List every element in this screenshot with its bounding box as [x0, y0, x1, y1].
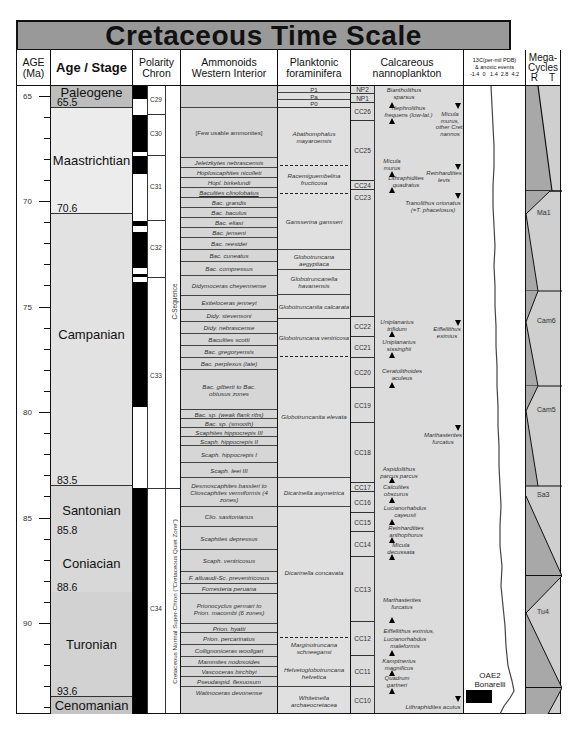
header-age-line1: AGE — [22, 57, 44, 68]
chart-title: Cretaceous Time Scale — [16, 20, 511, 51]
header-nannoplankton: Calcareous nannoplankton — [350, 50, 464, 86]
nanno-event: Micula murus, other Cret. nannos — [435, 111, 465, 137]
foram-zone: Helvetoglobotruncana helvetica — [278, 659, 350, 687]
nanno-zone-cc18: CC18 — [351, 423, 374, 483]
first-occurrence-icon — [389, 554, 395, 560]
stage-name: Cenomanian — [55, 698, 129, 713]
foram-zone: Globotruncana ventricosa — [278, 319, 350, 356]
stage-name: Campanian — [58, 327, 125, 342]
nanno-event: Biantholithus sparsus — [379, 87, 429, 100]
first-occurrence-icon — [389, 650, 395, 656]
foram-zone: Dicarinella concavata — [278, 507, 350, 637]
stage-boundary: 65.5 — [57, 96, 77, 108]
stage-name: Maastrichtian — [53, 153, 130, 168]
nanno-zone-cc12: CC12 — [351, 622, 374, 656]
ammonoid-zone: Clio. saxitonianus — [181, 507, 277, 527]
nanno-zone-cc10: CC10 — [351, 687, 374, 714]
age-column: 65 70 75 80 85 90 — [16, 86, 51, 714]
stage-campanian[interactable]: Campanian 83.5 — [51, 214, 132, 486]
nanno-event: Nephrolithus frequens (low-lat.) — [381, 105, 436, 118]
nanno-event: Lucianorhabdus cayeuxii — [379, 505, 431, 518]
header-mega-line2: Cycles — [528, 63, 558, 73]
foram-zone: Globotruncana aegyptiaca — [278, 250, 350, 270]
nanno-event: Reinhardtites levis — [425, 170, 463, 183]
header-forams: Planktonic foraminifera — [277, 50, 351, 86]
ammonoid-zone: Vascoceras birchbyi — [181, 667, 277, 677]
megacycle-ma1: Ma1 — [536, 209, 552, 216]
nanno-event: Lithraphidites acutus — [401, 704, 465, 711]
ammonoid-zone: Bac. eliasi — [181, 218, 277, 228]
nannoplankton-column: NP2 NP1 CC26 CC25 CC24 CC23 CC22 CC21 CC… — [350, 86, 464, 714]
stage-boundary: 70.6 — [57, 202, 77, 214]
foram-zone: Abathomphalus mayaroensis — [278, 108, 350, 165]
nanno-zone-cc15: CC15 — [351, 513, 374, 532]
header-forams-line2: foraminifera — [286, 68, 341, 79]
first-occurrence-icon — [389, 352, 395, 358]
foram-zone: Globotruncanita elevata — [278, 356, 350, 478]
ammonoid-zone: Scaph. hippocrepis II — [181, 437, 277, 446]
nanno-zone-cc20: CC20 — [351, 358, 374, 388]
foram-zone: Pa — [278, 93, 350, 100]
ammonoid-zone: Bac. sp. (smooth) — [181, 419, 277, 428]
stage-boundary: 83.5 — [57, 474, 77, 486]
nanno-event: Marthasterites furcatus — [421, 432, 465, 445]
foram-zone: P0 — [278, 100, 350, 108]
ammonoid-zone: Bac. perplexus (late) — [181, 358, 277, 370]
nanno-zone-cc24: CC24 — [351, 181, 374, 190]
nanno-event: Tranolithus orionatus (=T. phacelosus) — [401, 200, 465, 213]
stage-coniacian[interactable]: Coniacian 88.6 — [51, 535, 132, 592]
header-forams-line1: Planktonic — [290, 57, 338, 68]
chron-c30: C30 — [150, 130, 162, 137]
megacycle-curve — [526, 86, 562, 714]
megacycle-sa3: Sa3 — [536, 491, 550, 498]
foram-zone: Dicarinella asymetrica — [278, 478, 350, 507]
header-polarity: Polarity Chron — [132, 50, 181, 86]
ammonoid-zone: Didy. stevensoni — [181, 310, 277, 322]
ammonoid-zone: Forresteria peruana — [181, 584, 277, 594]
ammonoid-zone: Didy. nebrascense — [181, 322, 277, 334]
ammonoid-zone: Watinoceras devonense — [181, 687, 277, 697]
chron-c29: C29 — [150, 96, 162, 103]
anoxic-event-bar — [466, 690, 492, 703]
nanno-zone-cc19: CC19 — [351, 388, 374, 423]
stage-maastrichtian[interactable]: Maastrichtian 70.6 — [51, 108, 132, 214]
stage-turonian[interactable]: Turonian 93.6 — [51, 592, 132, 697]
ammonoid-zone: Bac. compressus — [181, 262, 277, 276]
ammonoid-zone: [Few usable ammonites] — [181, 108, 277, 158]
foram-zone: Globotruncanella havanensis — [278, 270, 350, 295]
first-occurrence-icon — [389, 497, 395, 503]
nanno-zone-cc25: CC25 — [351, 121, 374, 181]
foram-zone: Gansserina gansseri — [278, 193, 350, 250]
ammonoid-zone: Jeletzkytes nebrascensis — [181, 158, 277, 168]
ammonoid-zone: Baculites clinolobatus — [181, 188, 277, 198]
ammonoid-zone: Prion. hyatti — [181, 624, 277, 633]
foram-zone: Racemiguembelina fructicosa — [278, 165, 350, 193]
foram-zone: Whiteinella archaeocretacea — [278, 687, 350, 714]
age-tick-65: 65 — [23, 92, 32, 101]
chron-c31: C31 — [150, 183, 162, 190]
nanno-event: Micula murus — [379, 158, 405, 171]
megacycle-tu4: Tu4 — [536, 608, 550, 615]
ammonoid-zone: Scaphites depressus — [181, 527, 277, 550]
nanno-zone-cc17: CC17 — [351, 483, 374, 492]
age-tick-85: 85 — [23, 514, 32, 523]
first-occurrence-icon — [389, 477, 395, 483]
ammonoid-zone: Bac. baculus — [181, 208, 277, 218]
ammonoids-column: [Few usable ammonites] Jeletzkytes nebra… — [180, 86, 278, 714]
megacycles-column: Ma1 Cam6 Cam5 Sa3 Tu4 — [525, 86, 561, 714]
ammonoid-zone: Bac. jenseni — [181, 228, 277, 238]
age-tick-75: 75 — [23, 303, 32, 312]
nanno-zone-cc11: CC11 — [351, 656, 374, 687]
stage-cenomanian[interactable]: Cenomanian — [51, 697, 132, 714]
first-occurrence-icon — [389, 688, 395, 694]
stage-santonian[interactable]: Santonian 85.8 — [51, 486, 132, 535]
last-occurrence-icon — [455, 696, 461, 702]
stage-paleogene[interactable]: Paleogene 65.5 — [51, 86, 132, 108]
nanno-event: Kamptnerius magnificus — [379, 658, 419, 671]
header-ammonoids-line1: Ammonoids — [201, 57, 256, 68]
age-tick-70: 70 — [23, 197, 32, 206]
header-stage: Age / Stage — [50, 50, 133, 86]
stage-boundary: 93.6 — [57, 685, 77, 697]
header-megacycles: Mega- Cycles R T — [525, 50, 561, 86]
isotope-curve — [464, 86, 527, 714]
